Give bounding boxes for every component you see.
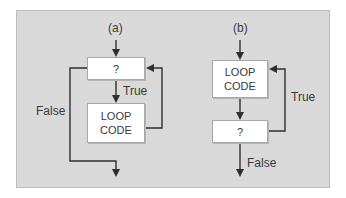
a-condition-text: ?	[113, 62, 119, 76]
b-false-label: False	[247, 156, 276, 170]
a-loop-line2: CODE	[100, 123, 132, 137]
a-true-label: True	[123, 84, 147, 98]
b-condition-text: ?	[237, 125, 243, 139]
b-loop-line2: CODE	[224, 79, 256, 93]
b-condition-box: ?	[212, 120, 268, 143]
b-loop-line1: LOOP	[225, 65, 256, 79]
a-loop-back-arrow	[145, 68, 162, 128]
a-title: (a)	[108, 21, 123, 35]
a-condition-box: ?	[87, 57, 145, 80]
b-true-label: True	[291, 90, 315, 104]
b-true-arrow	[268, 69, 285, 131]
a-loop-line1: LOOP	[101, 109, 132, 123]
a-false-label: False	[36, 104, 65, 118]
b-loop-code-box: LOOP CODE	[212, 60, 268, 98]
a-loop-code-box: LOOP CODE	[87, 103, 145, 143]
b-title: (b)	[233, 21, 248, 35]
